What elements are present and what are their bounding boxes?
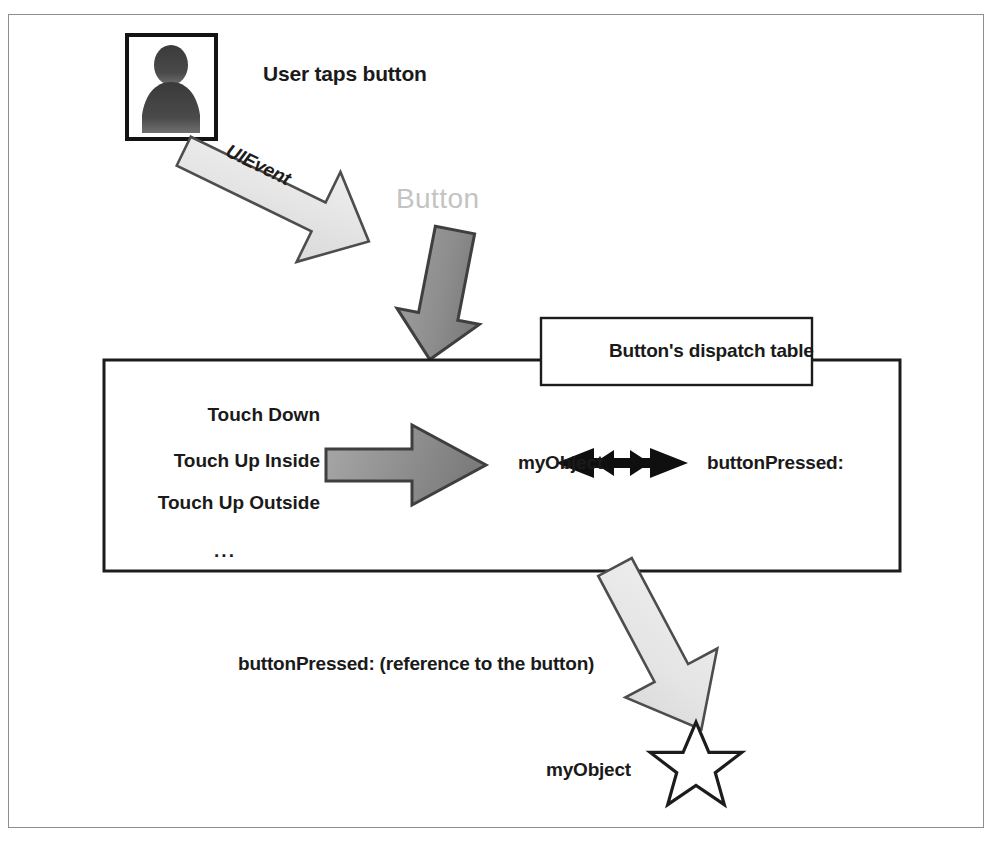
callback-arrow [569, 543, 747, 754]
dispatch-event-row: Touch Down [130, 404, 320, 426]
button-ghost-label: Button [396, 183, 479, 215]
dispatch-target-label: myObject [518, 452, 603, 474]
callback-message-label: buttonPressed: (reference to the button) [238, 653, 594, 675]
dispatch-event-ellipsis: ... [130, 540, 320, 562]
dispatch-table-title: Button's dispatch table [609, 340, 814, 362]
button-down-arrow [389, 222, 497, 368]
myobject-star-icon [650, 722, 742, 805]
dispatch-event-row: Touch Up Outside [130, 492, 320, 514]
user-taps-caption: User taps button [263, 62, 427, 86]
uievent-arrow [162, 106, 391, 286]
dispatch-action-label: buttonPressed: [707, 452, 844, 474]
myobject-instance-label: myObject [546, 759, 631, 781]
dispatch-event-row: Touch Up Inside [130, 450, 320, 472]
diagram-canvas: User taps button Button UIEvent Button's… [0, 0, 992, 842]
